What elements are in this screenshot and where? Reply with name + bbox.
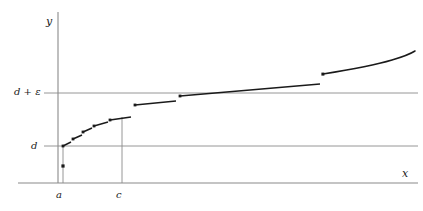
value-label-d-plus-epsilon: d + ε xyxy=(14,87,41,97)
isolated-point-at-a xyxy=(61,164,64,167)
step-segment-6 xyxy=(135,101,176,105)
step-segment-4 xyxy=(94,122,108,126)
step-dot-5 xyxy=(109,119,112,122)
value-label-d-plus-epsilon-prefix: d + xyxy=(14,86,35,97)
epsilon-symbol: ε xyxy=(35,86,40,97)
step-segment-5 xyxy=(110,117,131,120)
function-graph-figure: y x a c d d + ε xyxy=(0,0,423,211)
plot-canvas xyxy=(0,0,423,211)
value-label-d: d xyxy=(31,141,37,151)
step-dot-7 xyxy=(179,95,182,98)
step-segment-7 xyxy=(180,84,320,96)
step-dot-6 xyxy=(134,104,137,107)
step-dot-2 xyxy=(72,138,75,141)
final-rising-curve xyxy=(323,51,415,74)
tick-label-c: c xyxy=(116,190,122,200)
step-dot-3 xyxy=(82,131,85,134)
step-dot-1 xyxy=(62,145,65,148)
step-dot-4 xyxy=(93,125,96,128)
x-axis-label: x xyxy=(402,168,408,179)
tick-label-a: a xyxy=(56,190,62,200)
step-endpoint-dots xyxy=(62,73,325,148)
y-axis-label: y xyxy=(46,16,52,27)
